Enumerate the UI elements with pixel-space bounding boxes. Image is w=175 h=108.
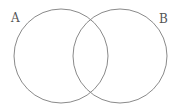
venn-svg (0, 0, 175, 108)
set-a-label: A (11, 12, 20, 24)
set-b-circle (73, 9, 167, 103)
set-b-label: B (159, 13, 168, 25)
set-a-circle (14, 9, 108, 103)
